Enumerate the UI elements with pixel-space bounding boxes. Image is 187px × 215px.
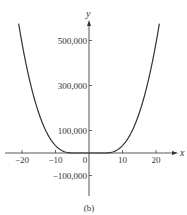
- x-tick-label: 20: [152, 155, 162, 165]
- figure-caption: (b): [84, 203, 95, 213]
- y-tick-label: 300,000: [58, 81, 88, 91]
- y-tick-label: −100,000: [53, 171, 88, 181]
- x-ticks: −20−1001020: [15, 150, 161, 165]
- axes: x y: [5, 8, 185, 196]
- x-tick-label: −20: [15, 155, 30, 165]
- y-axis-label: y: [85, 8, 91, 19]
- x-axis-arrow-icon: [172, 151, 178, 155]
- x-tick-label: 0: [83, 155, 88, 165]
- x-tick-label: 10: [118, 155, 128, 165]
- y-tick-label: 100,000: [58, 126, 88, 136]
- x-tick-label: −10: [48, 155, 63, 165]
- y-tick-label: 500,000: [58, 36, 88, 46]
- y-axis-arrow-icon: [87, 20, 91, 26]
- x-axis-label: x: [179, 147, 185, 158]
- chart: x y −20−1001020 500,000300,000100,000−10…: [0, 0, 187, 215]
